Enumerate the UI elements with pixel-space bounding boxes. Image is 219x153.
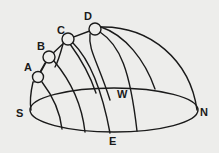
label-south: S bbox=[16, 108, 23, 119]
sun-path-diagram bbox=[0, 0, 219, 153]
label-sun-b: B bbox=[37, 41, 45, 52]
sun-circle-a bbox=[33, 72, 44, 83]
label-east: E bbox=[109, 136, 116, 147]
horizon-plane bbox=[30, 88, 198, 132]
label-north: N bbox=[200, 107, 208, 118]
label-sun-d: D bbox=[84, 11, 92, 22]
label-sun-a: A bbox=[24, 62, 32, 73]
label-sun-c: C bbox=[57, 25, 65, 36]
sun-circle-d bbox=[89, 23, 101, 35]
sun-circle-b bbox=[43, 51, 55, 63]
diagram-canvas: A B C D S N E W bbox=[0, 0, 219, 153]
sun-path-d bbox=[100, 32, 137, 131]
label-west: W bbox=[117, 89, 127, 100]
sun-path-b bbox=[54, 61, 85, 132]
